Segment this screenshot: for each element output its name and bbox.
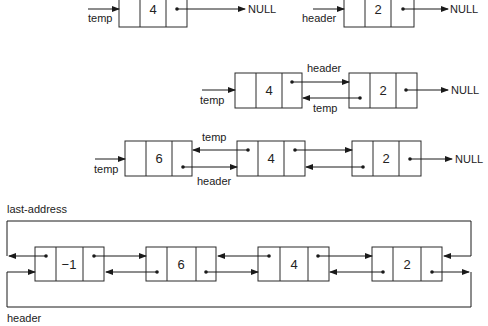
temp-label: temp — [313, 102, 337, 114]
node-value: 2 — [374, 2, 381, 17]
step1: 4 temp NULL 2 header NULL — [88, 0, 478, 27]
node-value: 4 — [149, 2, 156, 17]
node-4-step3: 4 — [237, 141, 305, 176]
node-4-step1: 4 — [119, 0, 187, 27]
step3: 6 4 2 temp temp header NU — [94, 131, 483, 187]
header-label: header — [302, 12, 337, 24]
null-label: NULL — [248, 3, 276, 15]
node-value: 6 — [155, 151, 162, 166]
header-label: header — [197, 175, 232, 187]
node-value: 2 — [382, 151, 389, 166]
null-label: NULL — [451, 84, 479, 96]
node-value: 4 — [290, 257, 297, 272]
node-value: 4 — [267, 151, 274, 166]
node-6-step3: 6 — [125, 141, 192, 176]
null-label: NULL — [455, 153, 483, 165]
node-value: −1 — [62, 257, 77, 272]
step4-circular-list: last-address header −1 6 4 2 — [7, 203, 471, 324]
node-4: 4 — [258, 247, 329, 281]
node-value: 2 — [403, 257, 410, 272]
last-address-label: last-address — [7, 203, 67, 215]
node-value: 4 — [265, 83, 272, 98]
temp-label: temp — [88, 12, 112, 24]
linked-list-diagram: 4 temp NULL 2 header NULL 4 — [0, 0, 488, 326]
header-label: header — [307, 62, 342, 74]
header-label: header — [7, 312, 42, 324]
node-value: 6 — [177, 257, 184, 272]
node-neg1-header: −1 — [35, 247, 104, 281]
step2: 4 2 temp header temp NULL — [200, 62, 479, 114]
node-6: 6 — [146, 247, 216, 281]
node-value: 2 — [379, 83, 386, 98]
temp-label: temp — [202, 131, 226, 143]
node-2: 2 — [372, 247, 442, 281]
temp-label: temp — [200, 94, 224, 106]
temp-label: temp — [94, 163, 118, 175]
node-4-step2: 4 — [235, 73, 302, 108]
node-2-step1: 2 — [344, 0, 414, 27]
null-label: NULL — [450, 3, 478, 15]
